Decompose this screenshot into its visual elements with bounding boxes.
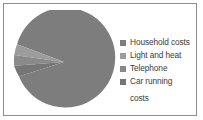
legend-item-telephone: Telephone (120, 63, 198, 75)
legend-label-continuation: costs (130, 93, 149, 103)
legend-label: Household costs (130, 37, 190, 48)
chart-area: Household costs Light and heat Telephone… (4, 4, 198, 117)
legend-label: Telephone (130, 63, 167, 74)
legend-item-car-running-costs: Car running costs (120, 76, 198, 105)
pie-chart (12, 10, 116, 114)
chart-legend: Household costs Light and heat Telephone… (120, 37, 198, 106)
legend-item-household-costs: Household costs (120, 37, 198, 49)
legend-item-first-line: Car running (120, 76, 198, 87)
legend-swatch-icon (120, 66, 126, 72)
legend-item-light-and-heat: Light and heat (120, 50, 198, 62)
legend-label: Light and heat (130, 50, 181, 61)
legend-swatch-icon (120, 53, 126, 59)
legend-swatch-icon (120, 79, 126, 85)
figure-card: Household costs Light and heat Telephone… (3, 3, 197, 116)
legend-label: Car running (130, 76, 172, 87)
legend-swatch-icon (120, 40, 126, 46)
